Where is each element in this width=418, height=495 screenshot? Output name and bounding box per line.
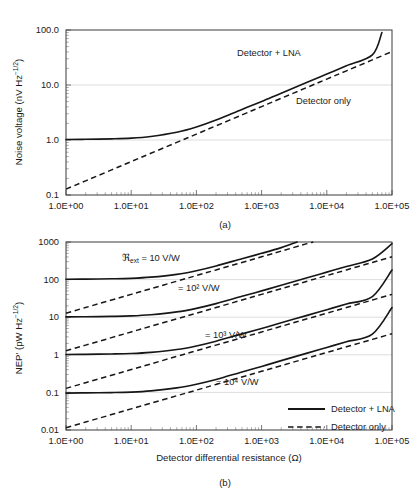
chart-a-x-tick-label: 1.0E+03 [244, 201, 279, 211]
chart-b-curve [66, 294, 392, 388]
chart-b-y-tick-label: 100 [43, 275, 59, 285]
chart-a-x-tick-labels: 1.0E+001.0E+011.0E+021.0E+031.0E+041.0E+… [49, 201, 410, 211]
chart-b-curve [66, 242, 297, 279]
chart-a-y-tick-label: 100.0 [36, 25, 59, 35]
chart-a-gridlines [66, 85, 392, 140]
chart-a-y-tick-label: 10.0 [41, 80, 59, 90]
chart-a-label-detector-only: Detector only [296, 96, 351, 106]
chart-b-y-tick-label: 1 [54, 350, 59, 360]
chart-b-y-axis-title: NEP' (pW Hz−1/2) [12, 302, 24, 374]
legend-label-detector-lna: Detector + LNA [331, 404, 396, 414]
chart-a-y-tick-label: 0.1 [46, 190, 59, 200]
figure-container: 1.0E+001.0E+011.0E+021.0E+031.0E+041.0E+… [0, 0, 418, 495]
chart-b-annotation-resp-1e4: = 10⁴ V/W [216, 377, 259, 387]
chart-a-svg: 1.0E+001.0E+011.0E+021.0E+031.0E+041.0E+… [0, 0, 418, 238]
chart-a-tickmarks [66, 30, 392, 195]
chart-b-curve [66, 244, 392, 317]
svg-text:Noise voltage (nV Hz−1/2): Noise voltage (nV Hz−1/2) [12, 59, 24, 165]
chart-a-label-detector-lna: Detector + LNA [237, 48, 302, 58]
chart-a-y-tick-label: 1.0 [46, 135, 59, 145]
chart-b-curve [66, 242, 313, 313]
legend-label-detector-only: Detector only [331, 422, 386, 432]
chart-a-y-tick-labels: 0.11.010.0100.0 [36, 25, 59, 200]
chart-b-svg: 1.0E+001.0E+011.0E+021.0E+031.0E+041.0E+… [0, 238, 418, 495]
chart-b-x-tick-label: 1.0E+04 [309, 436, 344, 446]
chart-a-x-tick-label: 1.0E+00 [49, 201, 84, 211]
chart-b-x-tick-labels: 1.0E+001.0E+011.0E+021.0E+031.0E+041.0E+… [49, 436, 410, 446]
chart-b-y-tick-label: 0.1 [46, 388, 59, 398]
chart-a-curve [66, 52, 392, 190]
chart-a-x-tick-label: 1.0E+05 [375, 201, 410, 211]
chart-a-curves [66, 33, 392, 190]
chart-a-plot-frame [66, 30, 392, 195]
chart-b-y-tick-label: 10 [49, 312, 59, 322]
chart-a-x-tick-label: 1.0E+01 [114, 201, 149, 211]
chart-a-x-tick-label: 1.0E+04 [309, 201, 344, 211]
chart-panel-a: 1.0E+001.0E+011.0E+021.0E+031.0E+041.0E+… [0, 0, 418, 238]
svg-text:NEP' (pW Hz−1/2): NEP' (pW Hz−1/2) [12, 302, 24, 374]
chart-b-x-tick-label: 1.0E+01 [114, 436, 149, 446]
chart-b-x-tick-label: 1.0E+02 [179, 436, 214, 446]
chart-b-y-tick-label: 0.01 [41, 425, 59, 435]
chart-a-x-tick-label: 1.0E+02 [179, 201, 214, 211]
chart-b-annotation-resp-1e2: = 10² V/W [178, 283, 220, 293]
chart-b-x-axis-title: Detector differential resistance (Ω) [156, 452, 302, 463]
chart-b-y-tick-label: 1000 [38, 238, 59, 247]
chart-b-annotation-resp-1e3: = 10³ V/W [205, 330, 247, 340]
chart-panel-b: 1.0E+001.0E+011.0E+021.0E+031.0E+041.0E+… [0, 238, 418, 495]
panel-a-caption: (a) [219, 219, 231, 230]
chart-b-y-tick-labels: 0.010.11101001000 [38, 238, 59, 435]
panel-b-caption: (b) [219, 477, 231, 488]
chart-b-annotation-resp-10: ℜext = 10 V/W [122, 252, 180, 264]
chart-a-curve [66, 33, 382, 140]
chart-b-legend: Detector + LNA Detector only [288, 404, 396, 432]
chart-a-y-axis-title: Noise voltage (nV Hz−1/2) [12, 59, 24, 165]
chart-b-curve [66, 270, 392, 354]
chart-b-x-tick-label: 1.0E+03 [244, 436, 279, 446]
chart-b-x-tick-label: 1.0E+05 [375, 436, 410, 446]
chart-b-x-tick-label: 1.0E+00 [49, 436, 84, 446]
